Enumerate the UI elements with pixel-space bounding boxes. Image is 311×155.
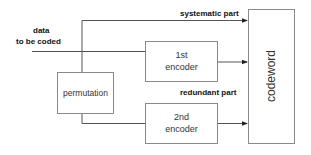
systematic-part-label: systematic part <box>180 10 239 18</box>
codeword-label: codeword <box>265 46 277 106</box>
permutation-label: permutation <box>57 72 114 114</box>
redundant-part-label: redundant part <box>180 89 236 97</box>
input-label-to-be-coded: to be coded <box>16 38 61 46</box>
encoder2-label-line1: 2nd <box>174 112 189 123</box>
encoder2-label: 2nd encoder <box>145 103 218 144</box>
input-label-data: data <box>33 27 49 35</box>
permutation-to-encoder2 <box>82 114 145 124</box>
encoder2-label-line2: encoder <box>165 124 198 135</box>
encoder1-label-line1: 1st <box>175 50 187 61</box>
encoder1-label: 1st encoder <box>145 41 218 82</box>
encoder1-label-line2: encoder <box>165 62 198 73</box>
